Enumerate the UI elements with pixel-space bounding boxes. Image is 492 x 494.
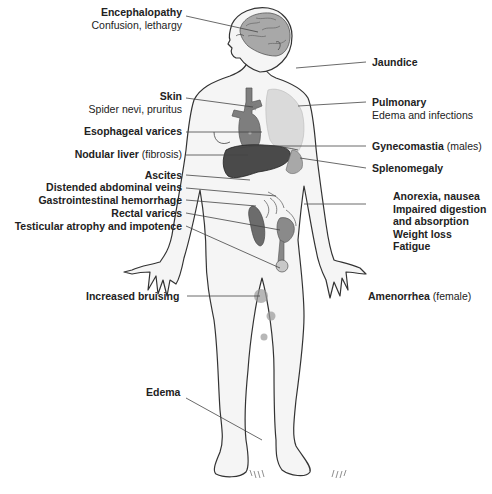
label-encephalopathy-block: Encephalopathy Confusion, lethargy <box>0 6 182 31</box>
testis-icon <box>276 260 288 272</box>
label-edema: Edema <box>146 386 180 399</box>
label-distended-abdominal-veins: Distended abdominal veins <box>0 181 182 194</box>
label-increased-bruising: Increased bruising <box>86 290 179 303</box>
label-gynecomastia: Gynecomastia (males) <box>372 140 482 153</box>
label-testicular-atrophy: Testicular atrophy and impotence <box>0 220 182 233</box>
label-rectal-varices: Rectal varices <box>0 207 182 220</box>
label-pulmonary: Pulmonary Edema and infections <box>372 96 473 121</box>
label-splenomegaly: Splenomegaly <box>372 162 443 175</box>
cirrhosis-manifestations-diagram: Encephalopathy Confusion, lethargy Skin … <box>0 0 492 494</box>
label-jaundice: Jaundice <box>372 56 418 69</box>
label-gi-symptoms: Anorexia, nausea Impaired digestion and … <box>393 190 486 253</box>
label-ascites: Ascites <box>0 169 182 182</box>
label-skin: Skin Spider nevi, pruritus <box>0 90 182 115</box>
label-nodular-liver: Nodular liver (fibrosis) <box>0 148 182 161</box>
label-amenorrhea: Amenorrhea (female) <box>368 290 471 303</box>
human-body-outline <box>124 8 366 477</box>
label-gi-hemorrhage: Gastrointestinal hemorrhage <box>0 194 182 207</box>
label-esophageal-varices: Esophageal varices <box>0 125 182 138</box>
